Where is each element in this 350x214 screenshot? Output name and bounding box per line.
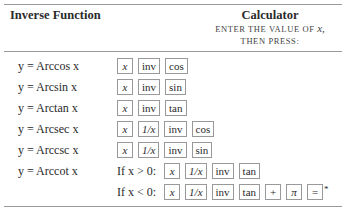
key-sequence: x inv cos <box>117 58 188 74</box>
key-equals: = <box>307 184 323 200</box>
key-x: x <box>117 79 133 95</box>
key-x: x <box>164 163 180 179</box>
footnote-mark: * <box>324 184 329 194</box>
key-inv: inv <box>212 184 234 200</box>
key-tan: tan <box>239 163 260 179</box>
function-label: y = Arccsc x <box>18 143 78 158</box>
key-reciprocal: 1/x <box>138 121 159 137</box>
key-sequence: x 1/x inv cos <box>117 121 214 137</box>
key-inv: inv <box>138 58 160 74</box>
key-sequence: If x > 0: x 1/x inv tan <box>117 163 260 179</box>
table-row: y = Arcsin x x inv sin <box>0 79 350 97</box>
calculator-instruction-2: THEN PRESS: <box>190 35 350 47</box>
key-x: x <box>117 142 133 158</box>
key-x: x <box>117 121 133 137</box>
table-row: y = Arctan x x inv tan <box>0 100 350 118</box>
key-cos: cos <box>165 58 188 74</box>
instruction-text: ENTER THE VALUE OF <box>215 24 314 34</box>
instruction-var: x, <box>317 22 325 34</box>
condition-label: If x > 0: <box>117 164 156 179</box>
top-rule <box>4 4 342 5</box>
key-inv: inv <box>164 142 186 158</box>
table-row: y = Arccos x x inv cos <box>0 58 350 76</box>
key-reciprocal: 1/x <box>185 163 206 179</box>
header-rule <box>4 51 342 52</box>
bottom-rule <box>4 206 342 207</box>
key-reciprocal: 1/x <box>185 184 206 200</box>
key-inv: inv <box>164 121 186 137</box>
table-row: y = Arccsc x x 1/x inv sin <box>0 142 350 160</box>
key-inv: inv <box>212 163 234 179</box>
calculator-title: Calculator <box>190 8 350 22</box>
table-row: If x < 0: x 1/x inv tan + π = * <box>0 184 350 202</box>
table-row: y = Arccot x If x > 0: x 1/x inv tan <box>0 163 350 181</box>
function-label: y = Arccot x <box>18 164 78 179</box>
key-plus: + <box>265 184 281 200</box>
function-label: y = Arcsec x <box>18 122 78 137</box>
key-x: x <box>164 184 180 200</box>
calculator-instruction-1: ENTER THE VALUE OF x, <box>190 22 350 35</box>
key-sequence: x inv tan <box>117 100 187 116</box>
key-tan: tan <box>165 100 186 116</box>
key-pi: π <box>286 184 302 200</box>
key-sin: sin <box>165 79 186 95</box>
key-sin: sin <box>192 142 213 158</box>
key-x: x <box>117 100 133 116</box>
key-sequence: x 1/x inv sin <box>117 142 212 158</box>
function-label: y = Arcsin x <box>18 80 77 95</box>
key-inv: inv <box>138 100 160 116</box>
table-row: y = Arcsec x x 1/x inv cos <box>0 121 350 139</box>
condition-label: If x < 0: <box>117 185 156 200</box>
key-cos: cos <box>192 121 215 137</box>
key-sequence: If x < 0: x 1/x inv tan + π = * <box>117 184 329 200</box>
column-header-calculator: Calculator ENTER THE VALUE OF x, THEN PR… <box>190 8 350 47</box>
key-x: x <box>117 58 133 74</box>
function-label: y = Arccos x <box>18 59 79 74</box>
key-tan: tan <box>239 184 260 200</box>
function-label: y = Arctan x <box>18 101 78 116</box>
key-reciprocal: 1/x <box>138 142 159 158</box>
key-sequence: x inv sin <box>117 79 186 95</box>
column-header-inverse-function: Inverse Function <box>10 8 101 23</box>
key-inv: inv <box>138 79 160 95</box>
